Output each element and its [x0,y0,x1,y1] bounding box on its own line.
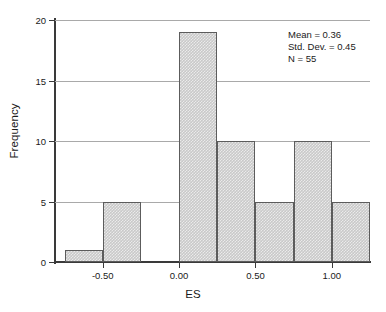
x-tick-mark-1 [179,262,180,268]
statistics-annotation: Mean = 0.36 Std. Dev. = 0.45 N = 55 [288,29,356,66]
y-tick-mark [49,202,54,203]
histogram-bar [65,250,103,262]
y-tick-mark [49,20,54,21]
y-tick-mark [49,141,54,142]
y-tick-label: 0 [41,257,46,268]
histogram-bar [217,141,255,262]
mean-label: Mean = 0.36 [288,29,356,41]
x-tick-mark-0 [103,262,104,268]
x-tick-label: 1.00 [323,270,342,281]
y-tick-mark [49,81,54,82]
histogram-bar [179,32,217,262]
stddev-label: Std. Dev. = 0.45 [288,41,356,53]
histogram-bar [294,141,332,262]
x-tick-label: -0.50 [92,270,114,281]
y-tick-label: 10 [35,136,46,147]
y-axis-title: Frequency [2,0,26,262]
x-axis-title-text: ES [185,288,200,300]
histogram-bar [332,202,370,263]
histogram-bar [103,202,141,263]
histogram-figure: Frequency 05101520-0.500.000.501.00 ES M… [0,0,386,312]
x-tick-mark-2 [255,262,256,268]
y-tick-label: 5 [41,196,46,207]
y-tick-label: 15 [35,75,46,86]
x-tick-label: 0.50 [246,270,265,281]
y-tick-label: 20 [35,15,46,26]
n-label: N = 55 [288,53,356,65]
y-tick-mark [49,262,54,263]
histogram-bar [255,202,293,263]
y-axis-title-text: Frequency [8,103,20,158]
gridline-y-20 [55,20,370,21]
x-axis-title: ES [0,288,386,300]
x-tick-label: 0.00 [170,270,189,281]
x-tick-mark-3 [332,262,333,268]
